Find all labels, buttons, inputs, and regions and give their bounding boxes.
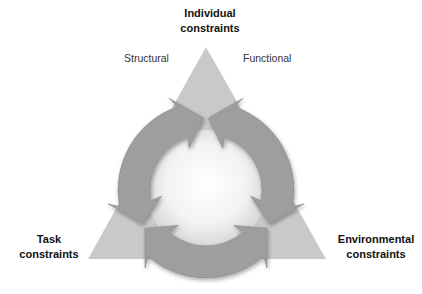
label-structural: Structural — [124, 51, 169, 66]
individual-line2: constraints — [160, 21, 260, 36]
label-functional: Functional — [243, 51, 291, 66]
label-task-constraints: Task constraints — [4, 232, 94, 262]
task-line2: constraints — [4, 247, 94, 262]
label-environmental-constraints: Environmental constraints — [326, 232, 422, 262]
environmental-line1: Environmental — [326, 232, 422, 247]
task-line1: Task — [4, 232, 94, 247]
environmental-line2: constraints — [326, 247, 422, 262]
label-individual-constraints: Individual constraints — [160, 6, 260, 36]
individual-line1: Individual — [160, 6, 260, 21]
